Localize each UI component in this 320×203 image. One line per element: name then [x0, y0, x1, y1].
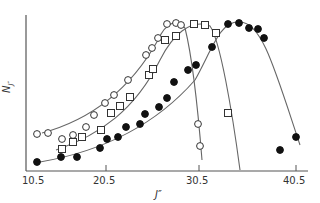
open-circle-marker	[178, 22, 185, 29]
square-marker	[59, 146, 66, 153]
square-marker	[202, 22, 209, 29]
square-marker	[127, 94, 134, 101]
square-marker	[108, 110, 115, 117]
open-circle-marker	[149, 45, 156, 52]
filled-circle-marker	[97, 145, 104, 152]
y-axis-title-main: N	[1, 86, 12, 93]
data-points	[34, 20, 300, 166]
x-tick-label-40-5: 40.5	[283, 175, 305, 186]
open-circle-marker	[195, 121, 202, 128]
open-circle-marker	[155, 35, 162, 42]
open-circle-marker	[45, 130, 52, 137]
square-marker	[173, 33, 180, 40]
open-circle-marker	[34, 131, 41, 138]
filled-circle-marker	[137, 121, 144, 128]
filled-circle-marker	[225, 21, 232, 28]
x-axis-title: J″	[155, 189, 162, 200]
filled-circle-marker	[246, 25, 253, 32]
filled-circle-marker	[58, 154, 65, 161]
square-marker	[213, 30, 220, 37]
filled-circle-marker	[255, 26, 262, 33]
x-tick-label-10-5: 10.5	[22, 175, 44, 186]
y-axis-title: NJ″	[1, 81, 15, 93]
filled-circle-marker	[104, 136, 111, 143]
filled-circle-marker	[123, 124, 130, 131]
fit-curve-0	[42, 23, 202, 160]
filled-circle-marker	[277, 147, 284, 154]
square-marker	[79, 134, 86, 141]
filled-circle-marker	[74, 154, 81, 161]
filled-circle-marker	[156, 104, 163, 111]
y-axis-title-sub: J″	[7, 81, 15, 86]
open-circle-marker	[70, 132, 77, 139]
square-marker	[117, 103, 124, 110]
square-marker	[98, 127, 105, 134]
filled-circle-marker	[142, 111, 149, 118]
square-marker	[191, 21, 198, 28]
open-circle-marker	[143, 52, 150, 59]
filled-circle-marker	[115, 134, 122, 141]
x-tick-label-20-5: 20.5	[93, 175, 115, 186]
square-marker	[70, 139, 77, 146]
open-circle-marker	[102, 100, 109, 107]
square-marker	[150, 66, 157, 73]
open-circle-marker	[111, 92, 118, 99]
filled-circle-marker	[293, 134, 300, 141]
filled-circle-marker	[34, 159, 41, 166]
filled-circle-marker	[209, 44, 216, 51]
open-circle-marker	[125, 77, 132, 84]
filled-circle-marker	[185, 67, 192, 74]
x-tick-label-30-5: 30.5	[186, 175, 208, 186]
open-circle-marker	[164, 21, 171, 28]
open-circle-marker	[197, 143, 204, 150]
filled-circle-marker	[171, 79, 178, 86]
open-circle-marker	[91, 112, 98, 119]
open-circle-marker	[83, 124, 90, 131]
square-marker	[225, 110, 232, 117]
filled-circle-marker	[164, 95, 171, 102]
chart-canvas	[0, 0, 320, 203]
filled-circle-marker	[193, 62, 200, 69]
open-circle-marker	[59, 136, 66, 143]
filled-circle-marker	[261, 35, 268, 42]
square-marker	[162, 37, 169, 44]
filled-circle-marker	[236, 20, 243, 27]
